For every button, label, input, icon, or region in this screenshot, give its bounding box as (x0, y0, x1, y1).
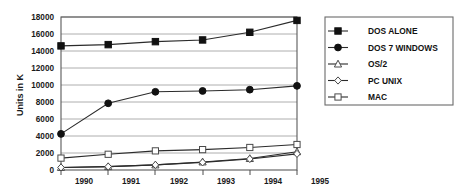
x-tick-label: 1995 (311, 177, 330, 186)
y-tick-label: 12000 (31, 64, 54, 73)
data-point (58, 130, 65, 137)
legend-item-label: MAC (368, 92, 387, 102)
y-tick-label: 8000 (36, 98, 55, 107)
y-tick-label: 2000 (36, 149, 55, 158)
data-point (199, 37, 205, 43)
x-tick-label: 1992 (170, 177, 189, 186)
data-point (199, 88, 206, 95)
legend-item-label: DOS ALONE (368, 26, 418, 36)
y-tick-label: 4000 (36, 132, 55, 141)
data-point (105, 41, 111, 47)
data-point (247, 144, 253, 150)
x-tick-label: 1993 (217, 177, 236, 186)
data-point (152, 148, 158, 154)
data-point (152, 88, 159, 95)
x-tick-label: 1990 (75, 177, 94, 186)
y-tick-label: 18000 (31, 13, 54, 22)
data-point (294, 17, 300, 23)
data-point (58, 155, 64, 161)
legend-item-label: PC UNIX (368, 76, 402, 86)
data-point (200, 147, 206, 153)
line-chart-figure: Units in K 18000 16000 14000 12000 10000… (0, 0, 462, 190)
data-point (247, 29, 253, 35)
x-tick-label: 1994 (264, 177, 283, 186)
x-tick-label: 1991 (122, 177, 141, 186)
data-point (105, 100, 112, 107)
chart-svg: Units in K 18000 16000 14000 12000 10000… (0, 0, 462, 190)
legend-marker-icon (335, 94, 341, 100)
y-tick-label: 16000 (31, 30, 54, 39)
data-point (294, 82, 301, 89)
data-point (246, 86, 253, 93)
y-axis-title: Units in K (15, 74, 25, 116)
y-tick-label: 10000 (31, 81, 54, 90)
y-tick-label: 0 (49, 166, 54, 175)
y-tick-label: 6000 (36, 115, 55, 124)
legend-item-label: DOS 7 WINDOWS (368, 43, 438, 53)
y-tick-label: 14000 (31, 47, 54, 56)
legend-item-dos-alone[interactable]: DOS ALONE (328, 26, 418, 36)
data-point (152, 38, 158, 44)
legend-item-label: OS/2 (368, 59, 387, 69)
data-point (105, 151, 111, 157)
legend-marker-icon (335, 28, 341, 34)
data-point (294, 141, 300, 147)
legend-marker-icon (335, 44, 342, 51)
data-point (58, 43, 64, 49)
